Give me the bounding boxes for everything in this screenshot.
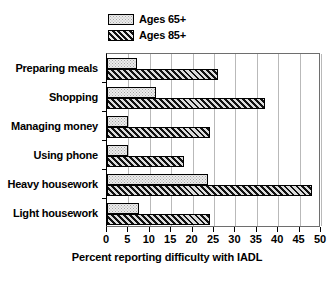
bar-ages-85 bbox=[107, 156, 184, 167]
legend-swatch-light-icon bbox=[108, 14, 134, 25]
legend-label-ages-65: Ages 65+ bbox=[139, 14, 186, 25]
y-axis-tick bbox=[102, 111, 106, 112]
x-axis-tick-label: 5 bbox=[124, 232, 130, 246]
bar-group bbox=[107, 83, 319, 112]
bar-ages-85 bbox=[107, 214, 210, 225]
x-axis-tick-label: 35 bbox=[250, 232, 262, 246]
bar-ages-65 bbox=[107, 203, 139, 214]
bar-series-container bbox=[107, 54, 319, 226]
y-axis-label: Heavy housework bbox=[7, 178, 98, 190]
y-axis-tick bbox=[102, 169, 106, 170]
bar-group bbox=[107, 54, 319, 83]
x-axis-tick-label: 50 bbox=[314, 232, 326, 246]
x-axis-tick-label: 20 bbox=[185, 232, 197, 246]
y-axis-label: Using phone bbox=[34, 149, 98, 161]
legend-swatch-hatch-icon bbox=[108, 30, 134, 41]
bar-ages-85 bbox=[107, 127, 210, 138]
y-axis-label: Managing money bbox=[11, 120, 98, 132]
bar-ages-65 bbox=[107, 116, 128, 127]
bar-ages-65 bbox=[107, 145, 128, 156]
x-axis-tick-label: 40 bbox=[271, 232, 283, 246]
y-axis-tick bbox=[102, 140, 106, 141]
gridline-50 bbox=[321, 54, 322, 226]
bar-ages-85 bbox=[107, 98, 265, 109]
bar-chart: Ages 65+ Ages 85+ Preparing mealsShoppin… bbox=[0, 0, 334, 281]
legend-label-ages-85: Ages 85+ bbox=[139, 30, 186, 41]
bar-ages-65 bbox=[107, 87, 156, 98]
x-axis-tick-label: 25 bbox=[207, 232, 219, 246]
bar-ages-85 bbox=[107, 185, 312, 196]
x-axis-tick-label: 15 bbox=[164, 232, 176, 246]
legend-item-ages-65: Ages 65+ bbox=[108, 12, 258, 27]
bar-ages-85 bbox=[107, 69, 218, 80]
bar-ages-65 bbox=[107, 174, 208, 185]
bar-group bbox=[107, 141, 319, 170]
x-axis-tick-label: 10 bbox=[143, 232, 155, 246]
y-axis-label: Preparing meals bbox=[15, 62, 98, 74]
y-axis-tick bbox=[102, 198, 106, 199]
bar-ages-65 bbox=[107, 58, 137, 69]
x-axis-tick-label: 0 bbox=[103, 232, 109, 246]
legend-item-ages-85: Ages 85+ bbox=[108, 28, 258, 43]
bar-group bbox=[107, 199, 319, 228]
x-axis-tick-label: 45 bbox=[292, 232, 304, 246]
y-axis-labels: Preparing mealsShoppingManaging moneyUsi… bbox=[0, 53, 102, 227]
plot-area bbox=[106, 53, 320, 227]
y-axis-label: Shopping bbox=[49, 91, 98, 103]
x-axis-tick-labels: 05101520253035404550 bbox=[106, 232, 320, 248]
bar-group bbox=[107, 112, 319, 141]
x-axis-title: Percent reporting difficulty with IADL bbox=[0, 251, 334, 263]
y-axis-tick bbox=[102, 82, 106, 83]
chart-legend: Ages 65+ Ages 85+ bbox=[108, 12, 258, 44]
y-axis-label: Light housework bbox=[13, 207, 98, 219]
x-axis-tick-label: 30 bbox=[228, 232, 240, 246]
bar-group bbox=[107, 170, 319, 199]
